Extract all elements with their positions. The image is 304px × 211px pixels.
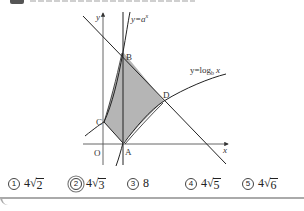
choice-value: 8: [143, 176, 149, 191]
choice-number-circle: 5: [242, 178, 254, 190]
square-root: √ 2: [30, 176, 44, 191]
radicand: 6: [270, 178, 278, 191]
coordinate-graph: y x O y=ax y=logbx B D C A: [0, 0, 304, 172]
exp-curve-label: y=ax: [130, 13, 149, 24]
exp-curve-lower: [116, 143, 123, 166]
choice-number-circle: 4: [185, 178, 197, 190]
choice-2-selected[interactable]: 2 4 √ 3: [70, 176, 106, 191]
log-curve-label: y=logbx: [190, 65, 220, 76]
line-bd: [83, 16, 226, 164]
choice-number-circle-marked: 2: [70, 178, 82, 190]
point-label-d: D: [163, 90, 170, 100]
radicand: 2: [36, 178, 44, 191]
radicand: 5: [213, 178, 221, 191]
point-label-b: B: [126, 52, 132, 62]
origin-label: O: [94, 148, 101, 158]
square-root: √ 3: [92, 176, 106, 191]
question-box-border: [0, 197, 304, 205]
choice-number-circle: 3: [127, 178, 139, 190]
choice-5[interactable]: 5 4 √ 6: [242, 176, 278, 191]
choice-number-circle: 1: [8, 178, 20, 190]
x-axis-label: x: [222, 145, 227, 155]
point-label-c: C: [96, 117, 102, 127]
answer-choices: 1 4 √ 2 2 4 √ 3 3 8 4 4 √ 5 5 4 √ 6: [0, 174, 304, 194]
square-root: √ 5: [207, 176, 221, 191]
radicand: 3: [98, 178, 106, 191]
square-root: √ 6: [264, 176, 278, 191]
choice-4[interactable]: 4 4 √ 5: [185, 176, 221, 191]
choice-3[interactable]: 3 8: [127, 176, 149, 191]
point-label-a: A: [125, 147, 132, 157]
y-axis-label: y: [95, 12, 100, 22]
choice-1[interactable]: 1 4 √ 2: [8, 176, 44, 191]
